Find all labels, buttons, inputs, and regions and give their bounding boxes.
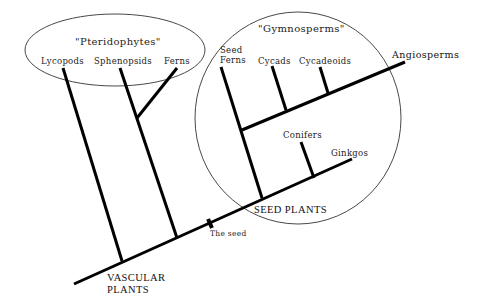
seed-tick-mark [208,219,212,228]
taxon-label-seed-ferns-line1: Seed [220,45,243,55]
conifers-branch [301,142,314,178]
seed-ferns-branch [221,67,262,198]
taxon-label-ginkgos: Ginkgos [331,148,368,158]
taxon-label-ferns: Ferns [164,56,190,66]
node-label-the-seed: The seed [210,229,247,239]
phylogeny-diagram: "Pteridophytes" "Gymnosperms" Lycopods S… [0,0,482,307]
taxon-label-lycopods: Lycopods [41,56,84,66]
pteridophytes-ellipse [25,14,205,86]
cycadeoids-branch [320,67,328,93]
taxon-label-cycads: Cycads [258,56,291,66]
taxon-label-sphenopsids: Sphenopsids [94,56,152,66]
group-label-gymnosperms: "Gymnosperms" [258,24,345,34]
taxon-label-seed-ferns-line2: Ferns [220,55,246,65]
ferns-branch [137,68,177,118]
sphenopsids-branch [120,68,177,238]
node-label-vascular-plants-line1: VASCULAR [107,272,165,284]
taxon-label-conifers: Conifers [283,130,322,140]
angiosperms-branch [242,62,405,130]
node-label-vascular-plants-line2: PLANTS [107,284,149,296]
gymnosperms-ellipse [195,12,401,224]
group-label-pteridophytes: "Pteridophytes" [75,37,161,47]
taxon-label-cycadeoids: Cycadeoids [299,56,351,66]
lycopods-branch [63,68,122,261]
node-label-seed-plants: SEED PLANTS [254,204,327,216]
taxon-label-angiosperms: Angiosperms [392,49,459,61]
cycads-branch [272,66,286,110]
